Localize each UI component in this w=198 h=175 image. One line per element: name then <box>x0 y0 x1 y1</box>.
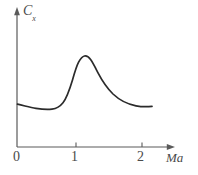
x-tick-label-2: 2 <box>137 150 144 164</box>
x-axis-label: Ma <box>166 151 183 164</box>
drag-coefficient-curve <box>18 56 153 110</box>
y-axis-label-subscript: x <box>32 14 36 23</box>
y-axis-arrowhead <box>14 7 20 15</box>
y-axis-label: Cx <box>23 4 36 21</box>
chart-plot-area <box>0 0 198 175</box>
figure-container: Cx Ma 0 1 2 <box>0 0 198 175</box>
y-axis-label-text: C <box>23 3 32 18</box>
x-tick-label-1: 1 <box>71 150 78 164</box>
x-tick-label-0: 0 <box>13 150 20 164</box>
